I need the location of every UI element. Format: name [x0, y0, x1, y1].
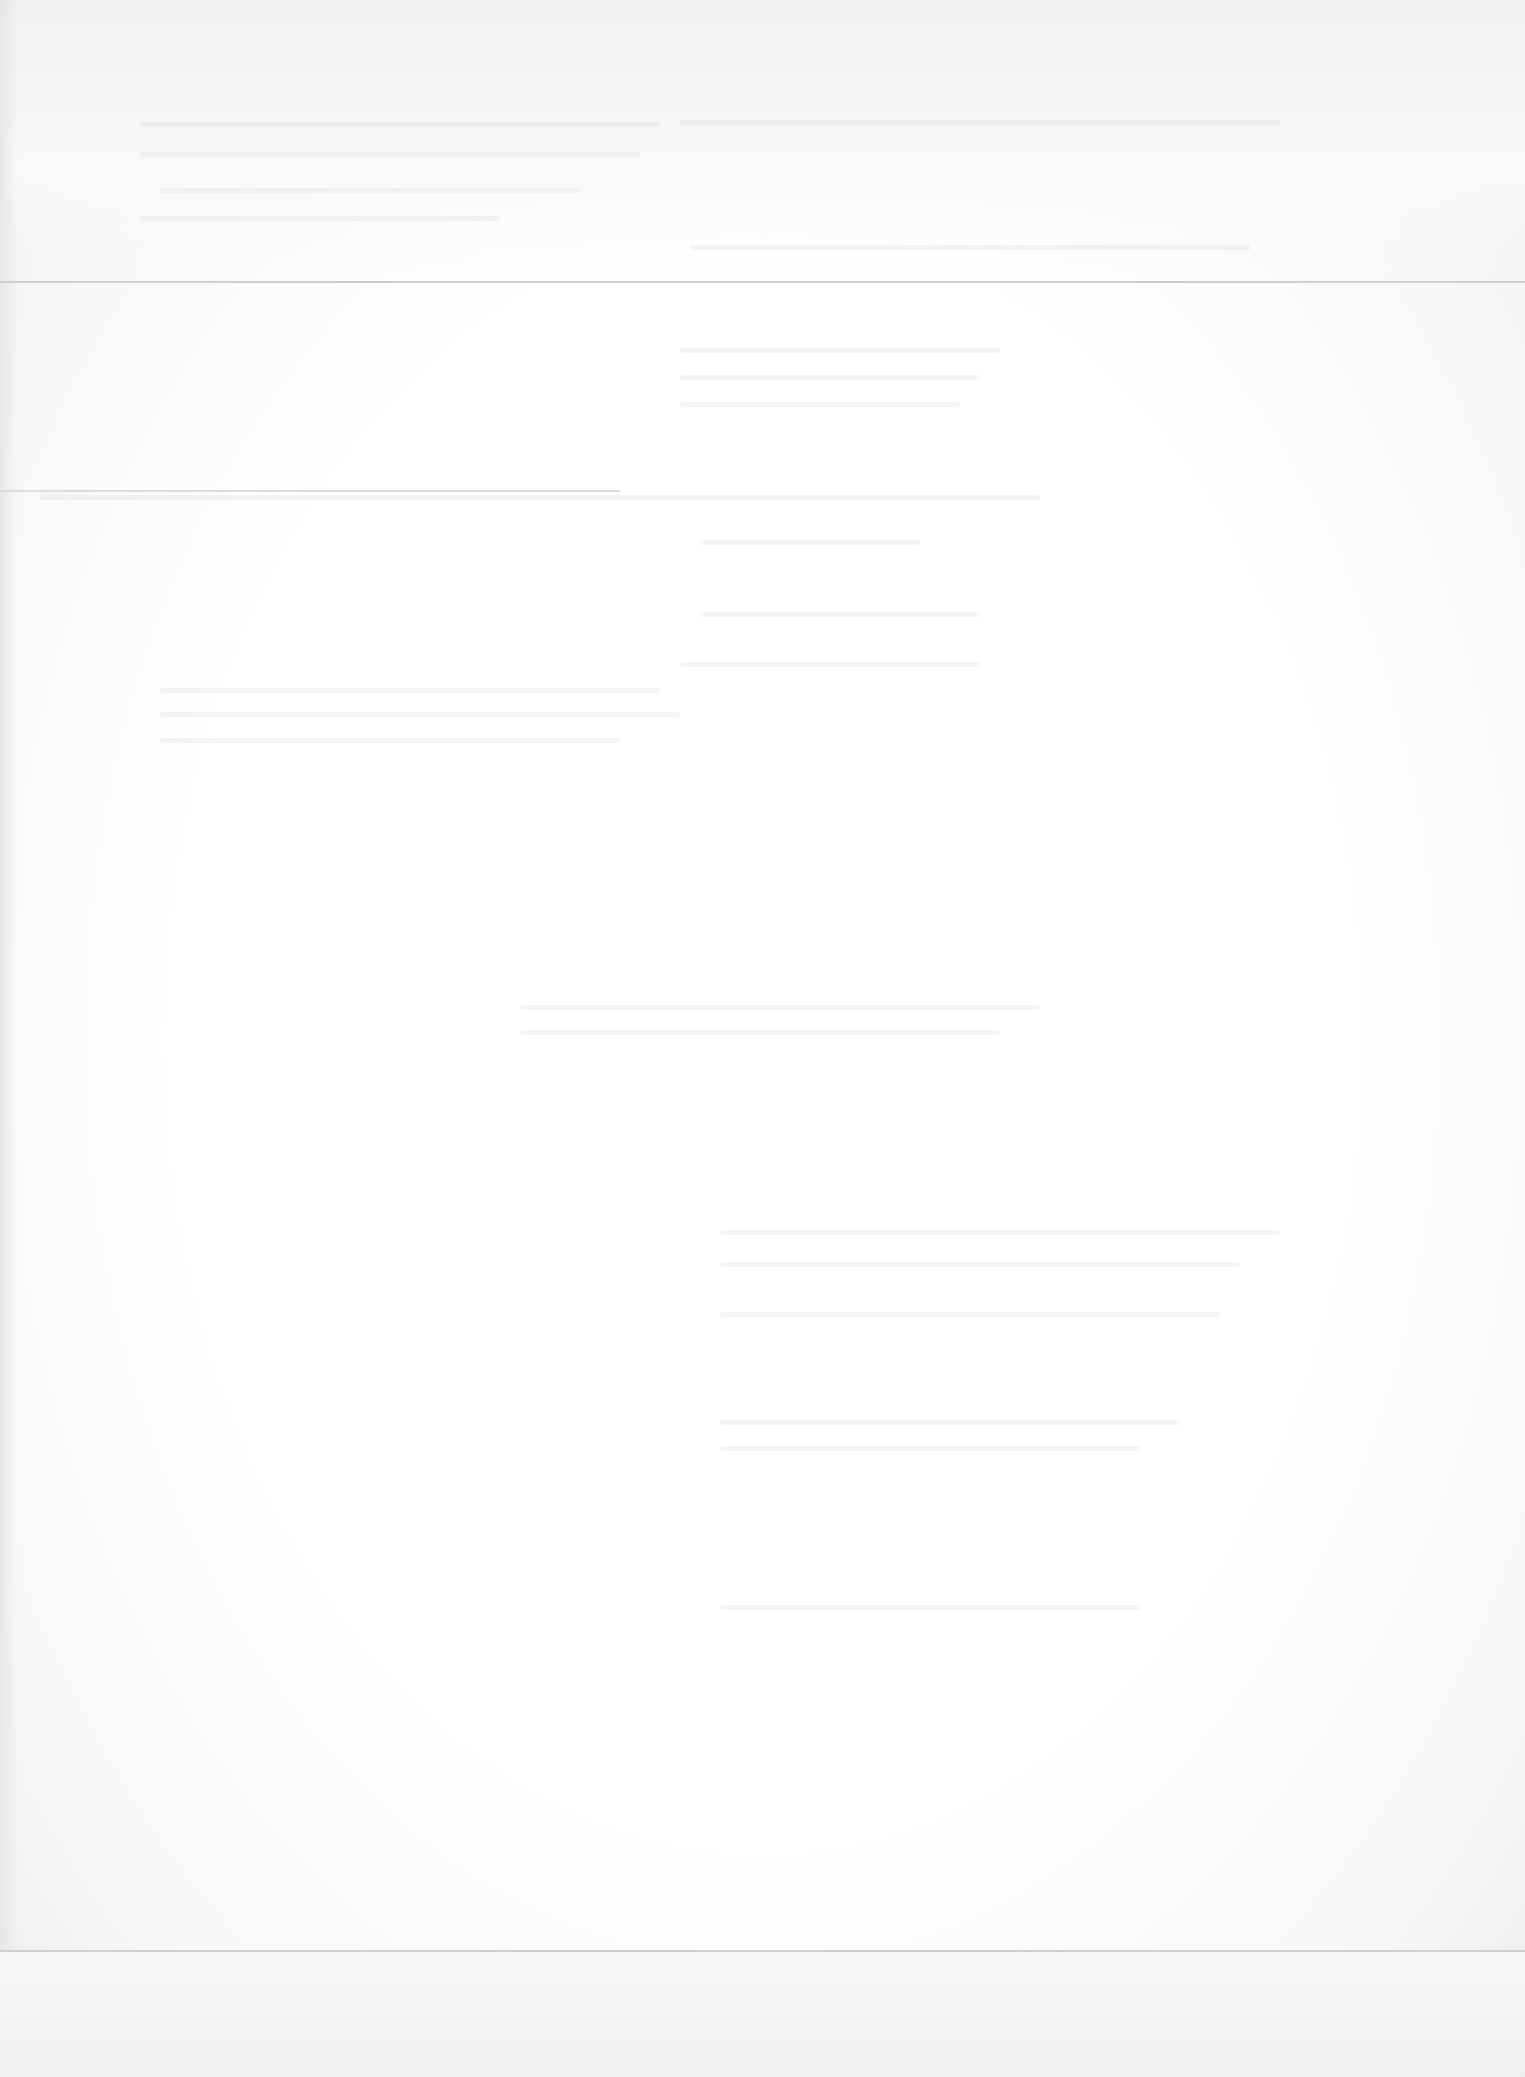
- horizontal-rule-bottom: [0, 1950, 1525, 1952]
- horizontal-rule-partial: [0, 490, 620, 492]
- bottom-shading: [0, 1952, 1525, 2077]
- top-shading: [0, 0, 1525, 280]
- scanned-page: [0, 0, 1525, 2077]
- horizontal-rule-top: [0, 281, 1525, 283]
- left-edge-shading: [0, 0, 18, 2077]
